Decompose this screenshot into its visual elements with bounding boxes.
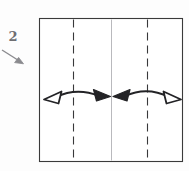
diagram-canvas: 2 bbox=[0, 0, 189, 171]
step-number-label: 2 bbox=[8, 29, 17, 44]
origami-step-diagram: 2 bbox=[0, 0, 189, 171]
